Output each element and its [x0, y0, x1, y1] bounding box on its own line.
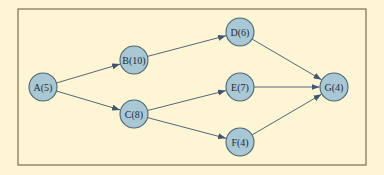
node-f: F(4) — [226, 128, 254, 156]
edge-b-to-d — [148, 36, 227, 57]
edges-layer — [56, 36, 321, 139]
edge-d-to-g — [252, 39, 321, 80]
node-label: F(4) — [231, 137, 248, 149]
node-d: D(6) — [226, 18, 254, 46]
node-label: D(6) — [231, 27, 250, 39]
node-e: E(7) — [226, 73, 254, 101]
edge-f-to-g — [252, 94, 321, 135]
edge-c-to-e — [148, 91, 226, 111]
node-label: G(4) — [325, 82, 344, 94]
node-c: C(8) — [120, 100, 148, 128]
edge-a-to-b — [56, 64, 120, 83]
edge-c-to-f — [148, 118, 227, 139]
node-label: C(8) — [125, 109, 143, 121]
precedence-network-diagram: A(5)B(10)C(8)D(6)E(7)F(4)G(4) — [0, 0, 384, 175]
node-b: B(10) — [120, 46, 148, 74]
node-g: G(4) — [320, 73, 348, 101]
edge-a-to-c — [56, 91, 120, 110]
node-label: B(10) — [122, 55, 145, 67]
node-label: A(5) — [34, 82, 53, 94]
node-a: A(5) — [29, 73, 57, 101]
node-label: E(7) — [231, 82, 249, 94]
